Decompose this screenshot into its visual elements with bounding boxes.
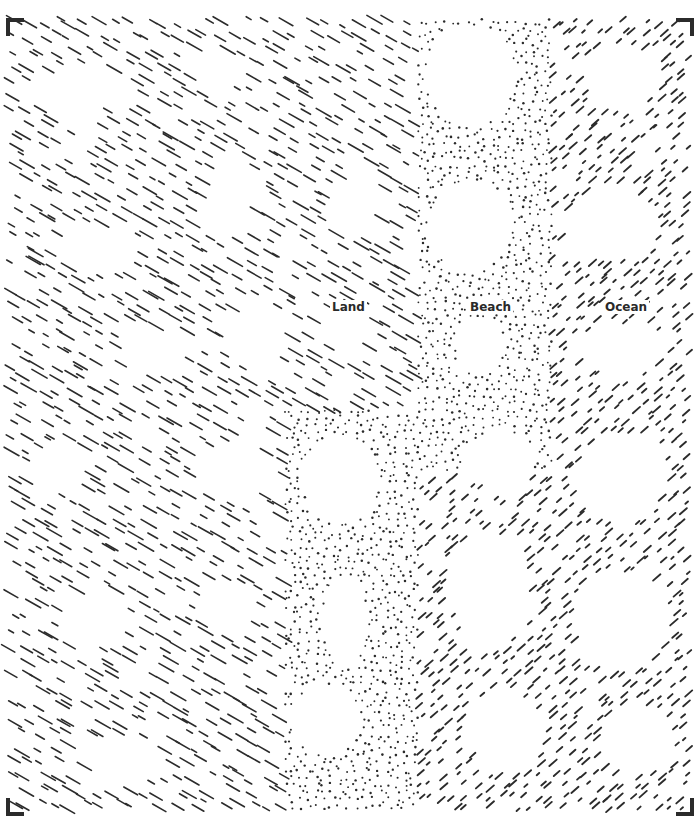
beach-texture (284, 18, 553, 810)
texture-segmentation-figure (0, 0, 698, 820)
beach-label: Beach (468, 300, 513, 314)
land-label: Land (330, 300, 367, 314)
ocean-label: Ocean (603, 300, 649, 314)
corner-mark-bottom-right (676, 798, 694, 816)
corner-mark-bottom-left (6, 798, 24, 816)
corner-mark-top-right (676, 18, 694, 36)
corner-mark-top-left (6, 18, 24, 36)
ocean-texture (416, 17, 693, 812)
